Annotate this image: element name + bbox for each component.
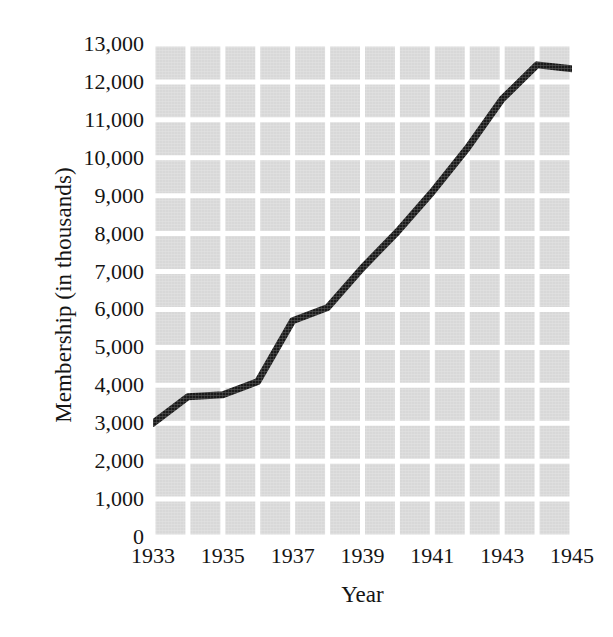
y-axis-tick-label: 5,000 <box>58 336 144 358</box>
x-axis-tick-label: 1945 <box>527 545 613 567</box>
plot-area <box>153 44 572 537</box>
y-axis-tick-labels: 13,00012,00011,00010,0009,0008,0007,0006… <box>58 44 144 537</box>
y-axis-tick-label: 4,000 <box>58 374 144 396</box>
y-axis-tick-label: 7,000 <box>58 261 144 283</box>
y-axis-tick-label: 9,000 <box>58 185 144 207</box>
y-axis-tick-label: 13,000 <box>58 33 144 55</box>
plot-svg <box>153 44 572 537</box>
y-axis-tick-label: 6,000 <box>58 298 144 320</box>
y-axis-tick-label: 1,000 <box>58 488 144 510</box>
grid-lines <box>153 44 572 537</box>
y-axis-tick-label: 2,000 <box>58 450 144 472</box>
y-axis-tick-label: 3,000 <box>58 412 144 434</box>
y-axis-tick-label: 10,000 <box>58 147 144 169</box>
x-axis-title: Year <box>153 582 572 608</box>
y-axis-tick-label: 11,000 <box>58 109 144 131</box>
y-axis-tick-label: 8,000 <box>58 223 144 245</box>
x-axis-tick-labels: 1933193519371939194119431945 <box>153 545 572 575</box>
line-chart-figure: Membership (in thousands) 13,00012,00011… <box>0 0 613 637</box>
y-axis-tick-label: 12,000 <box>58 71 144 93</box>
